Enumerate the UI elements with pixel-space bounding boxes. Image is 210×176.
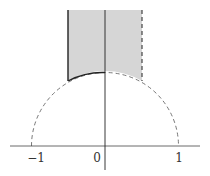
diagram-canvas: −1 0 1 xyxy=(0,0,210,176)
tick-label-one: 1 xyxy=(175,151,183,165)
tick-label-neg-one: −1 xyxy=(27,151,45,165)
tick-label-zero: 0 xyxy=(93,151,101,165)
